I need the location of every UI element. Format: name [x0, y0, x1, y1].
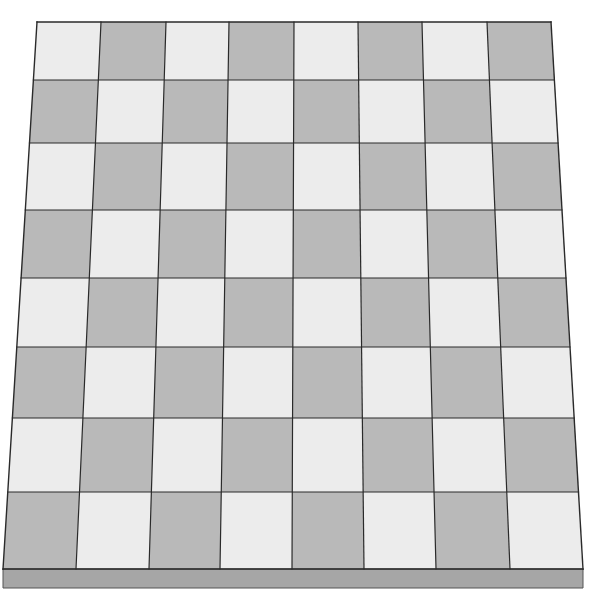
board-square-r2-c3[interactable]	[162, 80, 228, 143]
board-square-r1-c4[interactable]	[228, 22, 294, 80]
board-square-r8-c1[interactable]	[3, 492, 80, 569]
board-square-r1-c5[interactable]	[294, 22, 359, 80]
board-square-r2-c1[interactable]	[30, 80, 99, 143]
board-square-r1-c3[interactable]	[164, 22, 229, 80]
board-square-r7-c5[interactable]	[292, 418, 363, 492]
board-square-r5-c5[interactable]	[293, 278, 362, 347]
board-square-r8-c2[interactable]	[76, 492, 151, 569]
board-square-r7-c2[interactable]	[80, 418, 154, 492]
board-square-r1-c1[interactable]	[33, 22, 101, 80]
board-square-r8-c6[interactable]	[363, 492, 436, 569]
board-square-r1-c2[interactable]	[98, 22, 166, 80]
board-square-r2-c5[interactable]	[294, 80, 360, 143]
board-square-r4-c5[interactable]	[293, 210, 361, 278]
board-square-r6-c4[interactable]	[223, 347, 293, 418]
board-square-r3-c8[interactable]	[492, 143, 562, 210]
board-square-r5-c3[interactable]	[156, 278, 225, 347]
board-square-r1-c6[interactable]	[358, 22, 424, 80]
board-square-r3-c3[interactable]	[160, 143, 227, 210]
board-square-r6-c7[interactable]	[430, 347, 503, 418]
board-square-r6-c6[interactable]	[362, 347, 433, 418]
board-square-r2-c8[interactable]	[489, 80, 558, 143]
board-square-r4-c7[interactable]	[427, 210, 498, 278]
board-square-r1-c8[interactable]	[487, 22, 554, 80]
chessboard	[0, 0, 591, 603]
board-square-r6-c3[interactable]	[154, 347, 224, 418]
board-square-r5-c4[interactable]	[224, 278, 293, 347]
board-square-r7-c3[interactable]	[151, 418, 222, 492]
board-square-r4-c4[interactable]	[225, 210, 293, 278]
board-square-r7-c1[interactable]	[8, 418, 83, 492]
board-square-r3-c4[interactable]	[226, 143, 294, 210]
board-square-r5-c8[interactable]	[498, 278, 570, 347]
board-square-r8-c4[interactable]	[220, 492, 292, 569]
board-square-r8-c3[interactable]	[149, 492, 221, 569]
board-square-r5-c1[interactable]	[17, 278, 90, 347]
board-square-r5-c2[interactable]	[86, 278, 158, 347]
board-square-r5-c6[interactable]	[361, 278, 431, 347]
board-square-r4-c3[interactable]	[158, 210, 226, 278]
board-square-r3-c6[interactable]	[359, 143, 427, 210]
board-square-r2-c6[interactable]	[359, 80, 426, 143]
board-square-r6-c5[interactable]	[293, 347, 363, 418]
board-square-r4-c2[interactable]	[89, 210, 160, 278]
board-base-edge	[3, 569, 583, 588]
board-square-r6-c1[interactable]	[12, 347, 86, 418]
board-square-r2-c4[interactable]	[227, 80, 294, 143]
board-square-r3-c2[interactable]	[92, 143, 162, 210]
board-square-r8-c7[interactable]	[434, 492, 510, 569]
board-square-r3-c5[interactable]	[293, 143, 360, 210]
board-square-r4-c8[interactable]	[495, 210, 566, 278]
board-square-r4-c1[interactable]	[21, 210, 92, 278]
board-square-r6-c8[interactable]	[501, 347, 575, 418]
board-square-r8-c8[interactable]	[507, 492, 583, 569]
board-square-r4-c6[interactable]	[360, 210, 429, 278]
board-square-r2-c2[interactable]	[96, 80, 165, 143]
board-square-r7-c7[interactable]	[432, 418, 507, 492]
board-square-r2-c7[interactable]	[424, 80, 493, 143]
board-square-r3-c1[interactable]	[25, 143, 95, 210]
board-square-r7-c6[interactable]	[362, 418, 434, 492]
board-square-r7-c8[interactable]	[504, 418, 579, 492]
board-square-r1-c7[interactable]	[422, 22, 489, 80]
board-base-edge-face	[3, 569, 583, 588]
board-square-r8-c5[interactable]	[292, 492, 364, 569]
board-square-r3-c7[interactable]	[425, 143, 495, 210]
chessboard-scene	[0, 0, 591, 603]
board-square-r5-c7[interactable]	[429, 278, 501, 347]
board-square-r7-c4[interactable]	[221, 418, 292, 492]
board-square-r6-c2[interactable]	[83, 347, 156, 418]
